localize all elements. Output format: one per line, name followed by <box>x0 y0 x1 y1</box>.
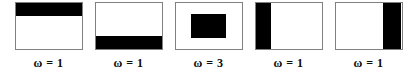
panel-5-right-band-region <box>383 3 401 49</box>
panel-3-box <box>175 2 243 50</box>
panel-1: ω = 1 <box>15 2 83 69</box>
panel-3-label: ω = 3 <box>193 57 223 69</box>
panel-2-box <box>95 2 163 50</box>
panel-5-box <box>335 2 403 50</box>
panel-4: ω = 1 <box>255 2 323 69</box>
panel-3: ω = 3 <box>175 2 243 69</box>
panel-1-top-band-region <box>16 3 82 16</box>
panel-2: ω = 1 <box>95 2 163 69</box>
panel-5: ω = 1 <box>335 2 403 69</box>
panel-3-center-rectangle-region <box>191 14 225 38</box>
panel-2-bottom-band-region <box>96 36 162 49</box>
panel-1-box <box>15 2 83 50</box>
panel-4-label: ω = 1 <box>273 57 303 69</box>
omega-panels-figure: ω = 1 ω = 1 ω = 3 ω = 1 ω = 1 <box>0 0 417 76</box>
panel-5-label: ω = 1 <box>353 57 383 69</box>
panel-4-box <box>255 2 323 50</box>
panel-1-label: ω = 1 <box>33 57 63 69</box>
panel-4-left-band-region <box>256 3 271 49</box>
panel-2-label: ω = 1 <box>113 57 143 69</box>
